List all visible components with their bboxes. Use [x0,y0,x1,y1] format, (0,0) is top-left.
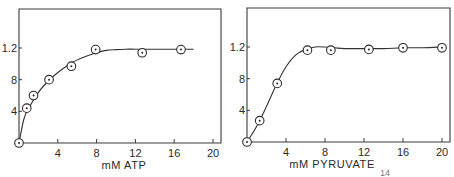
x-tick-label: 8 [94,147,100,159]
pyruvate-chart-panel: 48121620481.2mM PYRUVATE [230,8,450,170]
y-tick-label: 1.2 [230,41,245,53]
data-point [91,45,100,54]
pyruvate-fit-curve [247,47,442,142]
atp-chart-panel: 48121620481.2mM ATP [2,9,221,171]
data-point [29,91,38,100]
x-tick-label: 12 [358,146,370,158]
atp-x-axis-title: mM ATP [102,159,147,171]
footnote-superscript: 14 [380,168,390,177]
data-point [273,79,282,88]
data-point [15,139,24,148]
data-point [22,104,31,113]
x-tick-label: 16 [397,146,409,158]
data-point [255,116,264,125]
x-tick-label: 20 [207,147,219,159]
x-tick-label: 4 [55,147,61,159]
pyruvate-x-axis-title: mM PYRUVATE [289,158,375,170]
data-point [365,45,374,54]
x-tick-label: 4 [283,146,289,158]
pyruvate-plot-frame [247,8,450,142]
data-point [67,62,76,71]
x-tick-label: 20 [436,146,448,158]
atp-fit-curve [19,49,194,143]
data-point [303,46,312,55]
data-point [438,43,447,52]
x-tick-label: 16 [168,147,180,159]
x-tick-label: 12 [129,147,141,159]
data-point [243,138,252,147]
data-point [327,46,336,55]
y-tick-label: 1.2 [2,42,17,54]
y-tick-label: 4 [239,104,245,116]
y-tick-label: 4 [11,105,17,117]
data-point [399,43,408,52]
x-tick-label: 8 [322,146,328,158]
data-point [177,45,186,54]
y-tick-label: 8 [239,73,245,85]
figure: 48121620481.2mM ATP 48121620481.2mM PYRU… [0,0,454,177]
y-tick-label: 8 [11,74,17,86]
data-point [45,75,54,84]
data-point [138,48,147,57]
